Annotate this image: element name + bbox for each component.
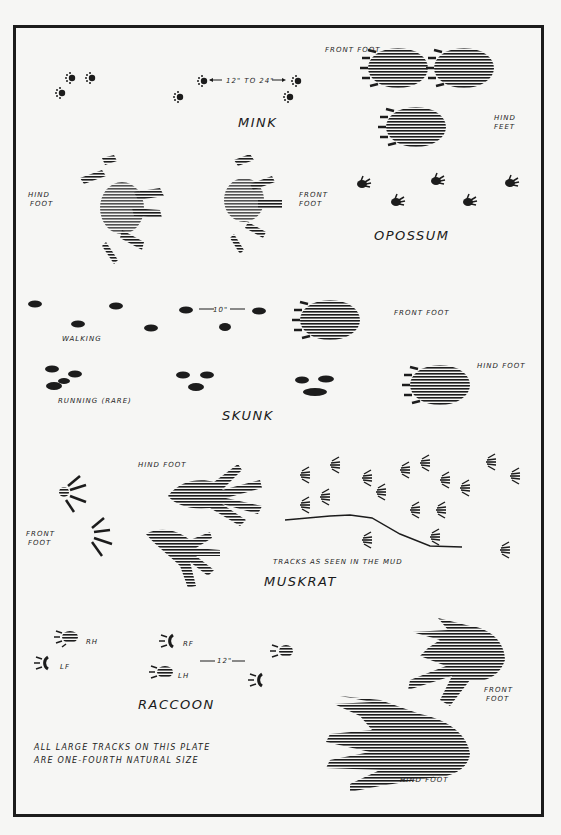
raccoon-lf-label: LF xyxy=(60,663,70,672)
track-illustrations xyxy=(0,0,561,835)
skunk-hind-foot-label: Hind foot xyxy=(477,362,526,371)
raccoon-front-foot-label-1: Front xyxy=(484,686,513,695)
opossum-front-foot xyxy=(224,154,282,254)
opossum-hind-foot-label-2: foot xyxy=(30,200,53,209)
footnote-line-1: All large tracks on this plate xyxy=(34,742,210,754)
muskrat-front-foot-large xyxy=(146,530,220,588)
raccoon-front-foot-label-2: foot xyxy=(486,695,509,704)
skunk-running-label: Running (rare) xyxy=(58,397,132,406)
opossum-trail xyxy=(357,173,519,206)
opossum-front-foot-label-1: Front xyxy=(299,191,328,200)
raccoon-lh-label: LH xyxy=(178,672,189,681)
skunk-front-foot-label: Front foot xyxy=(394,309,449,318)
opossum-front-foot-label-2: foot xyxy=(299,200,322,209)
footnote-line-2: are one-fourth natural size xyxy=(34,755,199,767)
muskrat-front-foot-small xyxy=(59,476,112,556)
raccoon-hind-foot-label: Hind foot xyxy=(400,776,449,785)
raccoon-title: RACCOON xyxy=(138,697,215,712)
mink-large-tracks xyxy=(360,48,494,147)
skunk-walking-label: Walking xyxy=(62,335,102,344)
mink-title: MINK xyxy=(238,115,277,130)
mink-hind-feet-label-1: Hind xyxy=(494,114,516,123)
muskrat-front-foot-label-2: foot xyxy=(28,539,51,548)
muskrat-front-foot-label-1: Front xyxy=(26,530,55,539)
muskrat-mud-tracks xyxy=(285,454,520,558)
skunk-walking-trail xyxy=(28,301,266,332)
mink-distance: 12" to 24" xyxy=(226,77,275,86)
opossum-hind-foot-label-1: Hind xyxy=(28,191,50,200)
skunk-distance: 10" xyxy=(213,306,228,315)
muskrat-mud-label: Tracks as seen in the mud xyxy=(273,558,403,567)
opossum-title: OPOSSUM xyxy=(374,228,450,243)
mink-front-foot-label: Front foot xyxy=(325,46,380,55)
skunk-title: SKUNK xyxy=(222,408,274,423)
mink-hind-feet-label-2: feet xyxy=(494,123,515,132)
opossum-hind-foot xyxy=(80,155,164,264)
muskrat-hind-foot-label: Hind foot xyxy=(138,461,187,470)
raccoon-rh-label: RH xyxy=(86,638,98,647)
muskrat-hind-foot xyxy=(168,464,262,526)
raccoon-distance: 12" xyxy=(217,657,232,666)
raccoon-rf-label: RF xyxy=(183,640,194,649)
raccoon-trail xyxy=(34,631,293,686)
muskrat-title: MUSKRAT xyxy=(264,574,337,589)
skunk-running-trail xyxy=(45,366,334,397)
